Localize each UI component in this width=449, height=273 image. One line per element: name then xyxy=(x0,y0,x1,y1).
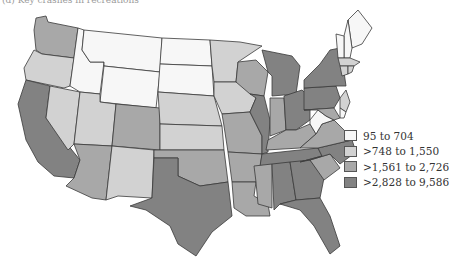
legend-label: 95 to 704 xyxy=(363,130,414,142)
legend-item: 95 to 704 xyxy=(344,128,449,144)
state-in xyxy=(270,98,286,136)
legend-label: >748 to 1,550 xyxy=(363,145,439,157)
legend-swatch xyxy=(344,177,357,188)
state-co xyxy=(112,104,160,150)
legend-item: >1,561 to 2,726 xyxy=(344,159,449,175)
state-ri xyxy=(348,66,354,74)
legend-swatch xyxy=(344,161,357,172)
state-wy xyxy=(100,66,160,108)
state-ks xyxy=(160,124,224,150)
state-sd xyxy=(158,64,214,96)
legend-label: >1,561 to 2,726 xyxy=(363,161,449,173)
state-me xyxy=(348,10,372,48)
state-ma xyxy=(338,58,360,66)
state-ne xyxy=(158,92,222,126)
legend-swatch xyxy=(344,130,357,141)
legend-item: >2,828 to 9,586 xyxy=(344,175,449,191)
legend-label: >2,828 to 9,586 xyxy=(363,176,449,188)
state-wa xyxy=(34,16,78,58)
state-pa xyxy=(304,86,340,110)
state-nm xyxy=(106,146,154,200)
legend: 95 to 704 >748 to 1,550 >1,561 to 2,726 … xyxy=(344,128,449,190)
legend-swatch xyxy=(344,146,357,157)
state-nd xyxy=(160,38,212,66)
state-fl xyxy=(280,198,340,254)
legend-item: >748 to 1,550 xyxy=(344,144,449,160)
